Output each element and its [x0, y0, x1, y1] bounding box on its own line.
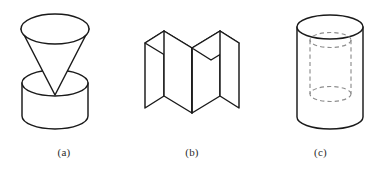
figure-b-caption: (b): [128, 146, 256, 158]
outer-cylinder-body: [297, 27, 363, 129]
cone-base-ellipse: [21, 14, 89, 44]
left-block-front-face: [164, 31, 192, 113]
figure-plate: (a) (b): [0, 0, 385, 174]
figure-c: (c): [256, 0, 385, 174]
figure-a-drawing: [0, 0, 128, 146]
figure-c-drawing: [256, 0, 385, 146]
figure-c-caption: (c): [256, 146, 385, 158]
figure-a: (a): [0, 0, 128, 174]
figure-b: (b): [128, 0, 256, 174]
figure-a-caption: (a): [0, 146, 128, 158]
right-block-right-face: [220, 31, 239, 108]
outer-cylinder-top-ellipse: [297, 15, 363, 39]
figure-b-drawing: [128, 0, 256, 146]
